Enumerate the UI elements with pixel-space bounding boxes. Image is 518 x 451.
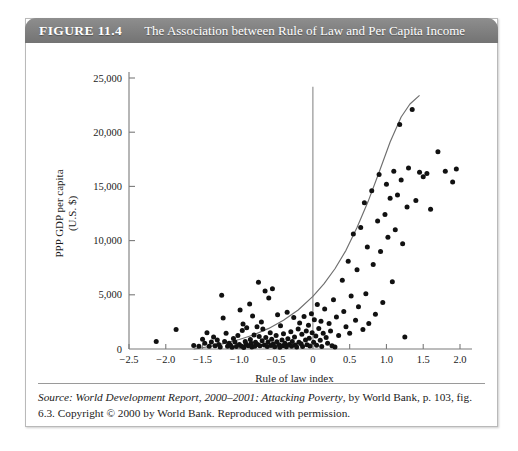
svg-text:0: 0 [117, 344, 122, 355]
svg-text:15,000: 15,000 [93, 181, 122, 192]
svg-text:0: 0 [310, 354, 315, 365]
scatter-points [154, 107, 459, 350]
svg-text:2.0: 2.0 [453, 354, 466, 365]
svg-text:−0.5: −0.5 [267, 354, 286, 365]
chart-plot-area: 05,00010,00015,00020,00025,000 −2.5−2.0−… [25, 43, 498, 383]
fit-curve [194, 95, 420, 349]
svg-text:10,000: 10,000 [93, 235, 122, 246]
figure-caption: The Association between Rule of Law and … [144, 23, 465, 39]
figure-header-bar: FIGURE 11.4 The Association between Rule… [25, 18, 498, 43]
svg-text:0.5: 0.5 [343, 354, 356, 365]
source-title: World Development Report, 2000–2001: Att… [76, 391, 343, 403]
svg-text:−2.5: −2.5 [119, 354, 138, 365]
source-note: Source: World Development Report, 2000–2… [38, 389, 482, 422]
axis-titles: Rule of law indexPPP GDP per capita(U.S.… [53, 169, 334, 383]
y-tick-labels: 05,00010,00015,00020,00025,000 [93, 73, 122, 355]
svg-text:−1.5: −1.5 [193, 354, 212, 365]
svg-text:20,000: 20,000 [93, 127, 122, 138]
y-axis-title-line1: PPP GDP per capita [53, 169, 65, 257]
svg-text:−2.0: −2.0 [156, 354, 175, 365]
figure-number-label: FIGURE 11.4 [39, 23, 122, 39]
svg-text:25,000: 25,000 [93, 73, 122, 84]
svg-text:1.0: 1.0 [380, 354, 393, 365]
svg-text:5,000: 5,000 [98, 289, 122, 300]
scatter-chart: 05,00010,00015,00020,00025,000 −2.5−2.0−… [25, 43, 498, 383]
x-tick-labels: −2.5−2.0−1.5−1.0−0.500.51.01.52.0 [119, 354, 466, 365]
svg-text:1.5: 1.5 [417, 354, 430, 365]
source-divider [38, 383, 485, 384]
source-prefix: Source: [38, 391, 76, 403]
x-axis-title: Rule of law index [255, 372, 334, 383]
svg-text:−1.0: −1.0 [230, 354, 249, 365]
y-axis-title-line2: (U.S. $) [66, 196, 79, 231]
